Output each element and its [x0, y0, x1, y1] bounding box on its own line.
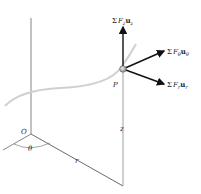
point-label: P	[112, 81, 118, 89]
origin-label: O	[21, 128, 27, 136]
point-p	[120, 66, 127, 73]
force-r-label: ΣFrur	[167, 80, 188, 90]
angle-label: θ	[28, 145, 33, 153]
force-r-arrow	[123, 69, 164, 84]
particle-path	[5, 44, 136, 106]
diagram-canvas: P O θ r z ΣFzuz ΣFθuθ ΣFrur	[0, 0, 201, 194]
force-z-label: ΣFzuz	[112, 16, 134, 26]
z-label: z	[119, 125, 124, 133]
force-theta-label: ΣFθuθ	[167, 47, 189, 57]
